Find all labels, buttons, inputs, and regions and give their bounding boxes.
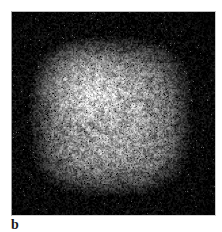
micrograph-canvas bbox=[12, 12, 215, 215]
figure-panel: b bbox=[0, 0, 222, 232]
panel-label-b: b bbox=[11, 217, 19, 232]
micrograph-image-panel bbox=[11, 11, 216, 216]
